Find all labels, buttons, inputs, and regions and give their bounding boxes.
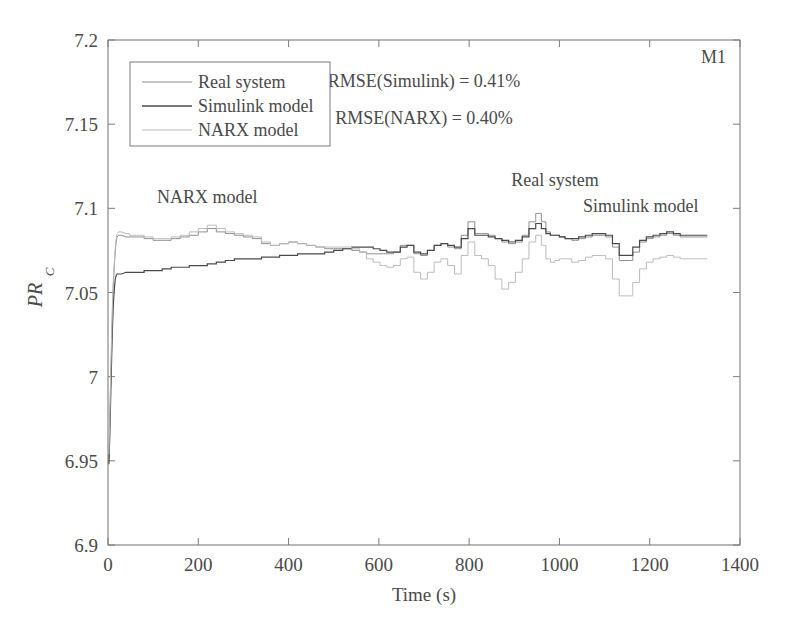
curve-label-simulink: Simulink model: [583, 196, 699, 216]
y-tick-label-7.2: 7.2: [74, 30, 98, 51]
data-series-group: [109, 213, 707, 464]
x-tick-label-1200: 1200: [631, 554, 669, 575]
series-line-real-system: [109, 213, 707, 459]
legend-label-real-system: Real system: [198, 72, 286, 92]
corner-label-m1: M1: [701, 47, 726, 67]
legend: Real systemSimulink modelNARX model: [130, 62, 330, 146]
y-axis-tick-labels: 6.96.9577.057.17.157.2: [65, 30, 98, 556]
curve-label-real: Real system: [511, 170, 599, 190]
figure-container: 0200400600800100012001400 6.96.9577.057.…: [0, 0, 792, 633]
y-tick-label-7.05: 7.05: [65, 283, 98, 304]
x-tick-label-0: 0: [103, 554, 113, 575]
series-line-simulink-model: [109, 223, 707, 464]
curve-label-narx: NARX model: [157, 187, 258, 207]
legend-label-simulink-model: Simulink model: [198, 96, 314, 116]
x-tick-label-1000: 1000: [540, 554, 578, 575]
y-axis-title: PR: [24, 283, 46, 308]
rmse-simulink: RMSE(Simulink) = 0.41%: [328, 71, 521, 92]
x-tick-label-1400: 1400: [721, 554, 759, 575]
x-tick-label-200: 200: [184, 554, 213, 575]
x-axis-tick-labels: 0200400600800100012001400: [103, 554, 759, 575]
x-tick-label-400: 400: [274, 554, 303, 575]
series-line-narx-model: [109, 225, 707, 454]
rmse-narx: RMSE(NARX) = 0.40%: [335, 108, 513, 129]
y-tick-label-6.95: 6.95: [65, 451, 98, 472]
legend-label-narx-model: NARX model: [198, 120, 299, 140]
y-tick-label-7: 7: [89, 367, 99, 388]
y-tick-label-7.1: 7.1: [74, 198, 98, 219]
x-tick-label-800: 800: [455, 554, 484, 575]
x-axis-title: Time (s): [392, 584, 456, 606]
y-tick-label-6.9: 6.9: [74, 535, 98, 556]
y-axis-title-subscript: C: [42, 267, 57, 276]
x-tick-label-600: 600: [365, 554, 394, 575]
y-tick-label-7.15: 7.15: [65, 114, 98, 135]
chart-canvas: 0200400600800100012001400 6.96.9577.057.…: [0, 0, 792, 633]
